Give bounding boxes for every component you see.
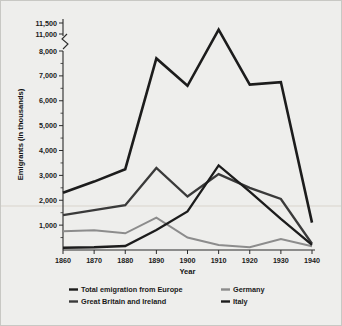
y-tick-label: 1,000 — [39, 221, 57, 230]
x-tick-label: 1860 — [55, 256, 71, 265]
y-tick-label: 6,000 — [39, 96, 57, 105]
y-tick-label: 5,000 — [39, 121, 57, 130]
series-line-total-emigration-from-europe — [63, 30, 312, 223]
y-tick-label: 11,500 — [35, 19, 57, 28]
axis-break-icon — [62, 34, 68, 49]
x-tick-label: 1920 — [242, 256, 258, 265]
x-tick-label: 1940 — [304, 256, 320, 265]
y-tick-label: 8,000 — [39, 47, 57, 56]
legend-label-italy: Italy — [233, 297, 249, 306]
y-tick-label: 2,000 — [39, 196, 57, 205]
y-tick-label: 4,000 — [39, 146, 57, 155]
x-axis-title: Year — [179, 267, 195, 276]
series-line-germany — [63, 218, 312, 248]
emigration-line-chart: 1,0002,0003,0004,0005,0006,0007,0008,000… — [1, 1, 342, 326]
x-tick-label: 1890 — [148, 256, 164, 265]
x-tick-label: 1900 — [180, 256, 196, 265]
x-tick-label: 1910 — [211, 256, 227, 265]
x-tick-label: 1930 — [273, 256, 289, 265]
chart-figure: 1,0002,0003,0004,0005,0006,0007,0008,000… — [0, 0, 342, 326]
x-tick-label: 1870 — [86, 256, 102, 265]
y-tick-label: 3,000 — [39, 171, 57, 180]
y-tick-label: 11,000 — [35, 30, 57, 39]
legend-label-total-emigration-from-europe: Total emigration from Europe — [81, 285, 183, 294]
x-tick-label: 1880 — [117, 256, 133, 265]
legend-label-germany: Germany — [233, 285, 266, 294]
legend-label-great-britain-and-ireland: Great Britain and Ireland — [81, 297, 166, 306]
y-tick-label: 7,000 — [39, 71, 57, 80]
y-axis-title: Emigrants (in thousands) — [16, 88, 25, 180]
chart-plot-area: 1,0002,0003,0004,0005,0006,0007,0008,000… — [1, 1, 342, 326]
